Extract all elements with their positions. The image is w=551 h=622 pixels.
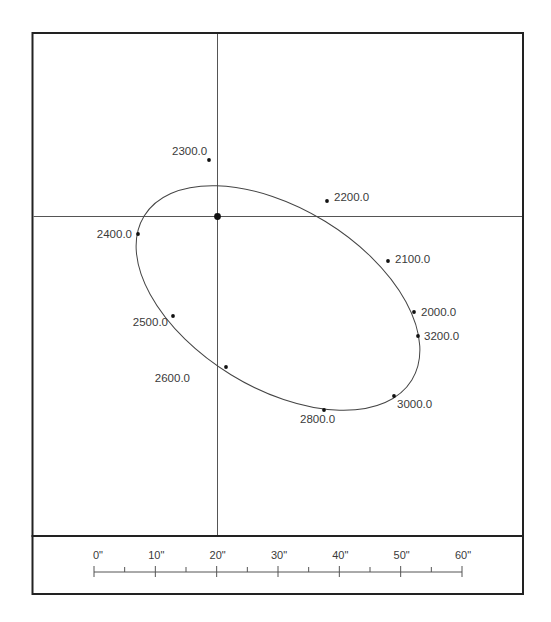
orbit-point-label: 2600.0 [155,372,190,384]
orbit-point-label: 2300.0 [172,145,207,157]
scale-label: 60" [455,549,471,561]
orbit-point-label: 2400.0 [97,228,132,240]
scale-label: 10" [148,549,164,561]
orbit-point-marker [412,310,416,314]
orbit-point-label: 3000.0 [397,398,432,410]
orbit-point-marker [416,334,420,338]
orbit-point-marker [136,232,140,236]
orbit-point-label: 2200.0 [334,191,369,203]
scale-label: 30" [271,549,287,561]
orbit-point-marker [322,408,326,412]
scale-label: 0" [93,549,103,561]
scale-label: 20" [210,549,226,561]
orbit-diagram: 2300.02200.02400.02100.02000.03200.02500… [0,0,551,622]
orbit-point-label: 2800.0 [300,413,335,425]
scale-frame [33,536,524,594]
orbit-point-label: 2500.0 [133,316,168,328]
orbit-point-marker [386,259,390,263]
orbit-point-label: 3200.0 [424,330,459,342]
orbit-point-marker [325,199,329,203]
plot-frame [33,33,524,536]
orbit-point-marker [224,365,228,369]
orbit-point-marker [392,394,396,398]
scale-label: 50" [394,549,410,561]
primary-star-marker [214,213,221,220]
orbit-point-marker [207,158,211,162]
orbit-point-label: 2100.0 [395,253,430,265]
orbit-point-marker [171,314,175,318]
scale-label: 40" [332,549,348,561]
orbit-point-label: 2000.0 [421,306,456,318]
